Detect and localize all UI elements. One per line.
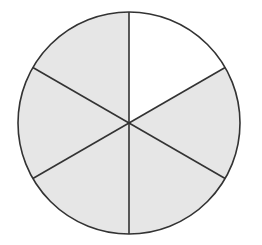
- fraction-circle-diagram: [0, 0, 262, 245]
